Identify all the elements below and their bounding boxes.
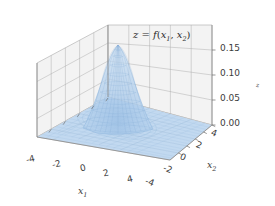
x1-axis-label: x1 bbox=[78, 186, 88, 198]
x1-axis-label-sub: 1 bbox=[83, 191, 87, 199]
z-tick-label-1: 0.05 bbox=[220, 94, 240, 103]
z-axis-label: z bbox=[256, 82, 259, 88]
z-tick-label-0: 0.00 bbox=[220, 119, 240, 128]
x2-axis-label-sub: 2 bbox=[212, 165, 216, 173]
z-tick-label-2: 0.10 bbox=[220, 69, 240, 78]
x2-axis-label: x2 bbox=[207, 160, 217, 172]
surface-plot-figure: z = f(x1, x2) 0.00 0.05 0.10 0.15 z -4 -… bbox=[0, 0, 275, 206]
plot-annotation: z = f(x1, x2) bbox=[133, 30, 190, 43]
annotation-close-paren: ) bbox=[187, 29, 191, 40]
z-tick-label-3: 0.15 bbox=[220, 44, 240, 53]
annotation-operator: = bbox=[138, 29, 153, 40]
